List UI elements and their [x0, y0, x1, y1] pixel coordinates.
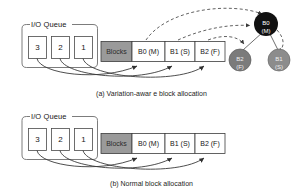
panel-b-graphics: [0, 0, 303, 193]
queue-title-b: I/O Queue: [31, 113, 67, 121]
block-cell-label-b2-b: B2 (F): [195, 140, 225, 147]
queue-item-label-1-b: 1: [75, 136, 93, 144]
figure-block-allocation: I/O Queue 3 2 1 Blocks B0 (M) B1 (S) B2 …: [0, 0, 303, 193]
queue-item-label-2-b: 2: [52, 136, 70, 144]
blocks-header-label-b: Blocks: [101, 140, 132, 147]
caption-panel-b: (b) Normal block allocation: [0, 180, 303, 187]
queue-item-label-3-b: 3: [29, 136, 47, 144]
block-cell-label-b1-b: B1 (S): [165, 140, 195, 147]
block-cell-label-b0-b: B0 (M): [132, 140, 165, 147]
